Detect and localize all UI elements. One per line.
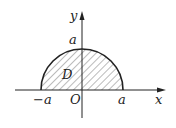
origin-label: O [70,92,81,107]
left-label: −a [33,92,52,107]
top-label: a [69,32,77,47]
y-arrow-icon [80,11,85,20]
y-axis-label: y [69,8,78,23]
region-label: D [61,67,73,82]
x-axis-label: x [155,92,163,107]
right-label: a [118,92,126,107]
half-disk-diagram: y x a D −a O a [0,0,176,128]
